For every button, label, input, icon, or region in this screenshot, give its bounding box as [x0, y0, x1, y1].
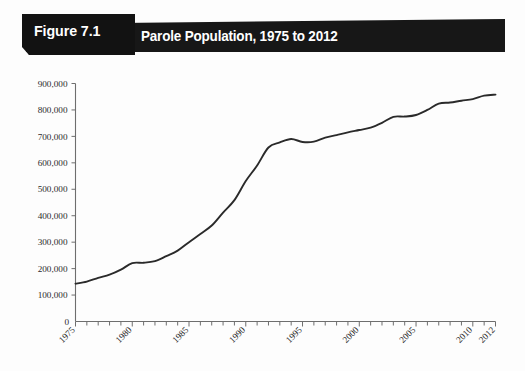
y-tick-label: 500,000	[38, 184, 68, 194]
y-tick-label: 900,000	[38, 79, 68, 89]
parole-population-line	[76, 95, 496, 284]
x-tick-group: 197519801985199019952000200520102012	[57, 322, 497, 345]
x-tick-label: 1980	[114, 325, 134, 345]
x-tick-label: 1990	[227, 325, 247, 345]
x-tick-label: 1995	[284, 325, 304, 345]
y-tick-label: 400,000	[38, 211, 68, 221]
figure-number-label: Figure 7.1	[34, 20, 100, 42]
figure-container: Parole Population, 1975 to 2012 Figure 7…	[0, 0, 525, 371]
x-tick-label: 2012	[477, 325, 497, 345]
chart-plot-area: 900,000800,000700,000600,000500,000400,0…	[0, 64, 525, 371]
y-tick-label: 600,000	[38, 158, 68, 168]
x-tick-label: 1985	[170, 325, 190, 345]
figure-title: Parole Population, 1975 to 2012	[141, 24, 457, 48]
origin-zero-label: 0	[64, 317, 69, 327]
y-axis: 900,000800,000700,000600,000500,000400,0…	[38, 79, 76, 322]
x-axis: 197519801985199019952000200520102012	[57, 322, 497, 345]
y-tick-label: 700,000	[38, 132, 68, 142]
y-tick-label: 800,000	[38, 105, 68, 115]
y-tick-label: 300,000	[38, 237, 68, 247]
line-chart-svg: 900,000800,000700,000600,000500,000400,0…	[0, 64, 525, 371]
y-tick-group: 900,000800,000700,000600,000500,000400,0…	[38, 79, 76, 301]
x-tick-label: 2010	[454, 325, 474, 345]
x-tick-label: 2005	[397, 325, 417, 345]
figure-header-banner: Parole Population, 1975 to 2012 Figure 7…	[0, 0, 525, 70]
y-tick-label: 100,000	[38, 290, 68, 300]
y-tick-label: 200,000	[38, 264, 68, 274]
x-tick-label: 1975	[57, 325, 77, 345]
x-tick-label: 2000	[341, 325, 361, 345]
